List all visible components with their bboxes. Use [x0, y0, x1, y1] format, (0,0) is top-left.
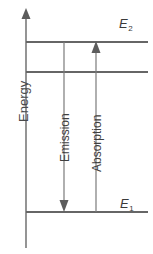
emission-arrowhead-icon	[60, 200, 69, 212]
e1-symbol: E	[120, 196, 129, 211]
energy-axis-label: Energy	[16, 81, 31, 122]
energy-level-label-e2: E2	[119, 16, 132, 31]
e1-subscript: 1	[129, 204, 133, 213]
energy-level-diagram: Energy Emission Absorption E2 E1	[0, 0, 153, 254]
absorption-label: Absorption	[90, 115, 104, 172]
energy-level-label-e1: E1	[120, 196, 133, 211]
e2-subscript: 2	[128, 24, 132, 33]
diagram-canvas	[0, 0, 153, 254]
e2-symbol: E	[119, 16, 128, 31]
emission-label: Emission	[58, 113, 72, 162]
energy-axis-arrowhead-icon	[22, 8, 31, 19]
